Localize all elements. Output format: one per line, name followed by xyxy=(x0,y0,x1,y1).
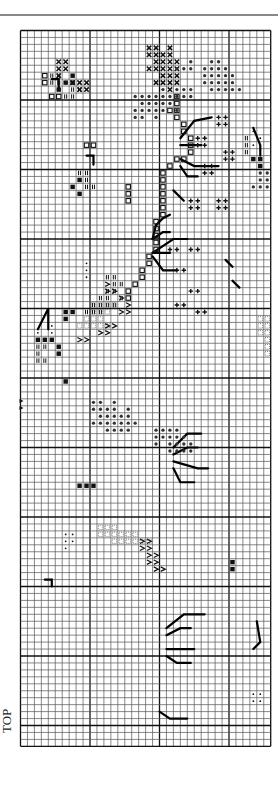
orientation-label: TOP xyxy=(0,709,25,733)
chart-grid xyxy=(21,31,271,747)
cross-stitch-chart xyxy=(0,0,278,787)
